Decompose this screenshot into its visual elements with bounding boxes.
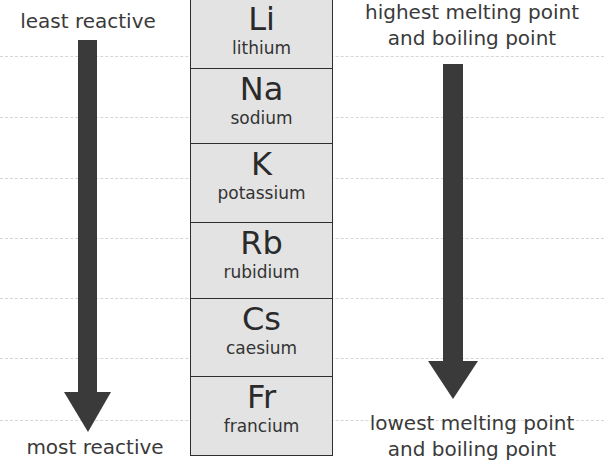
element-symbol: Na bbox=[191, 71, 332, 107]
highest-melting-label: highest melting point and boiling point bbox=[340, 0, 604, 51]
highest-melting-line1: highest melting point bbox=[340, 0, 604, 25]
lowest-melting-line1: lowest melting point bbox=[340, 410, 604, 436]
lowest-melting-line2: and boiling point bbox=[340, 436, 604, 462]
element-name: francium bbox=[191, 415, 332, 437]
element-symbol: Fr bbox=[191, 379, 332, 415]
element-box-li: Li lithium bbox=[190, 0, 333, 69]
element-box-cs: Cs caesium bbox=[190, 298, 333, 377]
element-symbol: Cs bbox=[191, 301, 332, 337]
element-box-k: K potassium bbox=[190, 143, 333, 223]
element-name: potassium bbox=[191, 182, 332, 204]
element-box-fr: Fr francium bbox=[190, 376, 333, 456]
reactivity-arrow-icon bbox=[48, 40, 128, 440]
element-symbol: Rb bbox=[191, 225, 332, 261]
element-name: lithium bbox=[191, 37, 332, 59]
highest-melting-line2: and boiling point bbox=[340, 25, 604, 51]
element-box-na: Na sodium bbox=[190, 68, 333, 144]
element-box-rb: Rb rubidium bbox=[190, 222, 333, 299]
element-name: caesium bbox=[191, 337, 332, 359]
element-symbol: Li bbox=[191, 1, 332, 37]
melting-point-arrow-icon bbox=[413, 64, 493, 404]
least-reactive-label: least reactive bbox=[8, 8, 168, 34]
element-name: sodium bbox=[191, 107, 332, 129]
lowest-melting-label: lowest melting point and boiling point bbox=[340, 410, 604, 462]
element-symbol: K bbox=[191, 146, 332, 182]
element-name: rubidium bbox=[191, 261, 332, 283]
